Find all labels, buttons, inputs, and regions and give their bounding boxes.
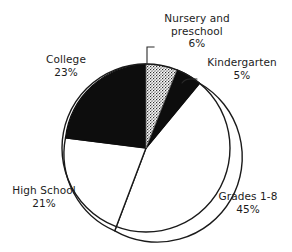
- pie-label-college: College 23%: [28, 53, 104, 78]
- pie-label-nursery-preschool-percent: 6%: [148, 37, 246, 50]
- pie-chart: Nursery and preschool 6% Kindergarten 5%…: [0, 0, 292, 252]
- pie-label-college-line1: College: [28, 53, 104, 66]
- pie-label-high-school-line1: High School: [2, 184, 86, 197]
- pie-label-kindergarten-line1: Kindergarten: [196, 56, 288, 69]
- pie-label-nursery-preschool-line2: preschool: [148, 25, 246, 38]
- pie-label-kindergarten: Kindergarten 5%: [196, 56, 288, 81]
- pie-label-grades-1-8-percent: 45%: [208, 203, 288, 216]
- pie-label-kindergarten-percent: 5%: [196, 69, 288, 82]
- pie-label-nursery-preschool: Nursery and preschool 6%: [148, 12, 246, 50]
- pie-label-high-school-percent: 21%: [2, 197, 86, 210]
- pie-label-high-school: High School 21%: [2, 184, 86, 209]
- pie-label-nursery-preschool-line1: Nursery and: [148, 12, 246, 25]
- pie-label-grades-1-8: Grades 1-8 45%: [208, 190, 288, 215]
- pie-label-grades-1-8-line1: Grades 1-8: [208, 190, 288, 203]
- leader-line-nursery-preschool: [147, 47, 154, 64]
- pie-label-college-percent: 23%: [28, 66, 104, 79]
